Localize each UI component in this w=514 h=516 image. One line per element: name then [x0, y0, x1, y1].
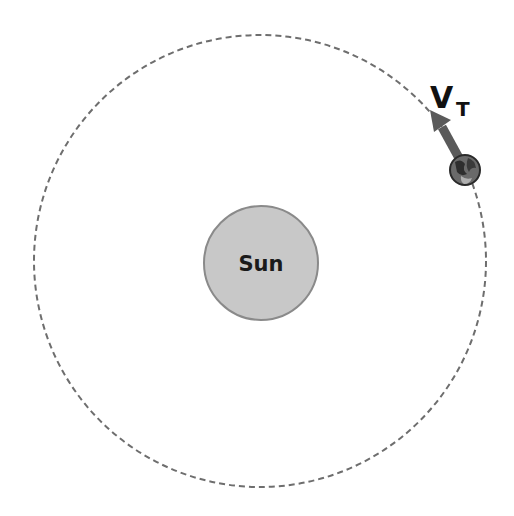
- earth-icon: [450, 155, 480, 185]
- sun: Sun: [204, 206, 318, 320]
- velocity-arrow: [430, 110, 459, 158]
- orbit-diagram: Sun V T: [0, 0, 514, 516]
- velocity-label-subscript: T: [456, 97, 470, 121]
- velocity-label-main: V: [430, 80, 454, 115]
- velocity-label: V T: [430, 80, 470, 121]
- sun-label: Sun: [238, 252, 283, 276]
